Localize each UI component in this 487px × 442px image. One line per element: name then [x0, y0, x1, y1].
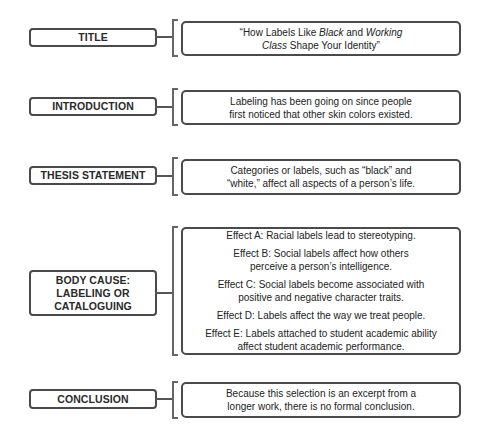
label-body-cause: BODY CAUSE: LABELING OR CATALOGUING	[29, 270, 157, 316]
connector-conclusion	[155, 398, 172, 400]
content-conclusion: Because this selection is an excerpt fro…	[181, 382, 461, 418]
effect-e: Effect E: Labels attached to student aca…	[183, 327, 459, 353]
label-body-line-2: LABELING OR	[56, 287, 129, 300]
label-body-line-3: CATALOGUING	[54, 300, 132, 313]
effect-d: Effect D: Labels affect the way we treat…	[211, 309, 432, 322]
effect-c: Effect C: Social labels become associate…	[183, 278, 459, 304]
label-thesis: THESIS STATEMENT	[29, 166, 157, 185]
connector-title	[155, 36, 172, 38]
effect-a: Effect A: Racial labels lead to stereoty…	[200, 229, 441, 242]
bracket-body	[172, 226, 178, 356]
bracket-conclusion	[172, 381, 178, 419]
label-introduction: INTRODUCTION	[29, 97, 157, 116]
content-thesis: Categories or labels, such as “black” an…	[181, 159, 461, 195]
content-body-effects: Effect A: Racial labels lead to stereoty…	[181, 227, 461, 355]
bracket-introduction	[172, 88, 178, 126]
label-title-text: TITLE	[78, 31, 108, 44]
label-introduction-text: INTRODUCTION	[52, 100, 134, 113]
content-introduction: Labeling has been going on since people …	[181, 90, 461, 125]
conclusion-text: Because this selection is an excerpt fro…	[183, 387, 459, 413]
connector-body	[155, 292, 172, 294]
label-body-line-1: BODY CAUSE:	[56, 274, 130, 287]
bracket-thesis	[172, 157, 178, 196]
label-thesis-text: THESIS STATEMENT	[40, 169, 145, 182]
title-line-1: “How Labels Like Black and WorkingClass …	[230, 26, 413, 52]
bracket-title	[172, 19, 178, 57]
effect-b: Effect B: Social labels affect how other…	[183, 247, 459, 273]
content-title: “How Labels Like Black and WorkingClass …	[181, 21, 461, 56]
connector-introduction	[155, 106, 172, 108]
label-title: TITLE	[29, 28, 157, 47]
introduction-text: Labeling has been going on since people …	[183, 95, 459, 121]
label-conclusion-text: CONCLUSION	[57, 393, 129, 406]
thesis-text: Categories or labels, such as “black” an…	[183, 164, 459, 190]
label-conclusion: CONCLUSION	[29, 389, 157, 409]
connector-thesis	[155, 175, 172, 177]
